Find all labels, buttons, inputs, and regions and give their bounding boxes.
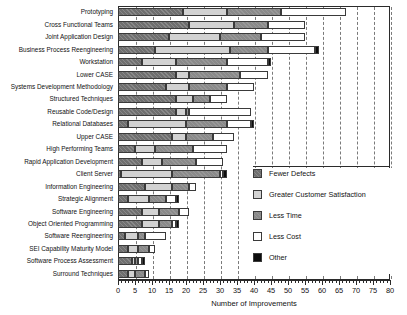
x-tick: [149, 280, 150, 283]
bar-segment: [189, 108, 250, 116]
x-tick: [176, 280, 177, 283]
bar-segment: [145, 270, 148, 278]
y-axis-label: Reusable Code/Design: [47, 108, 113, 116]
legend-swatch-icon: [253, 253, 262, 262]
y-axis-label: Relational Databases: [52, 120, 113, 128]
x-tick: [118, 280, 119, 285]
x-tick: [247, 280, 248, 283]
x-tick-label: 80: [386, 287, 394, 295]
bar-segment: [213, 133, 233, 141]
bar-segment: [251, 120, 254, 128]
x-tick-label: 0: [116, 287, 120, 295]
bar-segment: [268, 46, 316, 54]
y-axis-label: Software Engineering: [52, 208, 113, 216]
bar-segment: [118, 220, 142, 228]
x-tick: [155, 280, 156, 283]
x-tick: [366, 280, 367, 283]
x-tick: [339, 280, 340, 285]
bar-segment: [118, 257, 132, 265]
x-tick: [380, 280, 381, 283]
bar-segment: [220, 33, 261, 41]
x-tick-label: 40: [250, 287, 258, 295]
bar-segment: [230, 46, 267, 54]
bar-segment: [189, 71, 240, 79]
x-tick: [217, 280, 218, 283]
bar-segment: [128, 245, 138, 253]
bar-segment: [315, 46, 318, 54]
bar-segment: [176, 71, 190, 79]
bar-segment: [176, 95, 193, 103]
x-tick: [359, 280, 360, 283]
bar-segment: [176, 58, 227, 66]
x-tick: [159, 280, 160, 283]
legend-label: Less Cost: [269, 231, 301, 242]
bar-segment: [118, 58, 142, 66]
x-tick: [278, 280, 279, 283]
bar-segment: [128, 120, 186, 128]
x-tick: [305, 280, 306, 285]
x-tick-label: 65: [335, 287, 343, 295]
legend-swatch-icon: [253, 169, 262, 178]
bar-segment: [268, 21, 305, 29]
x-tick: [281, 280, 282, 283]
bar-segment: [227, 120, 251, 128]
y-axis-label: Workstation: [79, 58, 113, 66]
x-tick: [251, 280, 252, 283]
bar-segment: [159, 220, 173, 228]
bar-segment: [166, 83, 190, 91]
legend-label: Fewer Defects: [269, 168, 315, 179]
x-tick-label: 30: [216, 287, 224, 295]
y-axis-label: SEI Capability Maturity Model: [29, 245, 113, 253]
x-tick: [387, 280, 388, 283]
x-tick: [336, 280, 337, 283]
bar-segment: [223, 170, 226, 178]
x-tick: [189, 280, 190, 283]
x-tick: [142, 280, 143, 283]
x-tick: [257, 280, 258, 283]
y-axis-label: Software Process Assessment: [27, 257, 113, 265]
bar-segment: [121, 170, 172, 178]
bar-segment: [142, 158, 162, 166]
bar-segment: [183, 8, 227, 16]
x-tick-label: 75: [369, 287, 377, 295]
x-tick-label: 15: [165, 287, 173, 295]
y-axis-label: High Performing Teams: [46, 145, 113, 153]
y-axis-label: Strategic Alignment: [58, 195, 113, 203]
bar-segment: [142, 257, 145, 265]
x-tick: [383, 280, 384, 283]
x-tick: [172, 280, 173, 283]
bar-segment: [149, 245, 156, 253]
bar-segment: [176, 195, 179, 203]
bar-segment: [227, 8, 281, 16]
bar-segment: [138, 245, 148, 253]
bar-segment: [118, 270, 128, 278]
x-tick-label: 55: [301, 287, 309, 295]
y-axis-label: Lower CASE: [76, 71, 113, 79]
bar-segment: [186, 133, 213, 141]
bar-segment: [240, 71, 267, 79]
x-tick: [121, 280, 122, 283]
x-tick-label: 70: [352, 287, 360, 295]
x-tick: [302, 280, 303, 283]
x-tick: [230, 280, 231, 283]
y-axis-category-labels: PrototypingCross Functional TeamsJoint A…: [0, 6, 116, 280]
x-tick: [370, 280, 371, 283]
x-tick: [315, 280, 316, 283]
bar-segment: [118, 8, 183, 16]
bar-segment: [128, 195, 148, 203]
bar-segment: [227, 58, 268, 66]
bar-segment: [118, 21, 189, 29]
bar-segment: [281, 8, 346, 16]
x-tick: [125, 280, 126, 283]
x-tick: [166, 280, 167, 283]
x-tick: [291, 280, 292, 283]
y-axis-label: Prototyping: [81, 8, 113, 16]
x-tick-label: 35: [233, 287, 241, 295]
legend-label: Less Time: [269, 210, 302, 221]
x-tick: [135, 280, 136, 285]
bar-segment: [118, 83, 166, 91]
x-tick: [376, 280, 377, 283]
legend-swatch-icon: [253, 232, 262, 241]
x-tick: [210, 280, 211, 283]
bar-segment: [118, 71, 176, 79]
